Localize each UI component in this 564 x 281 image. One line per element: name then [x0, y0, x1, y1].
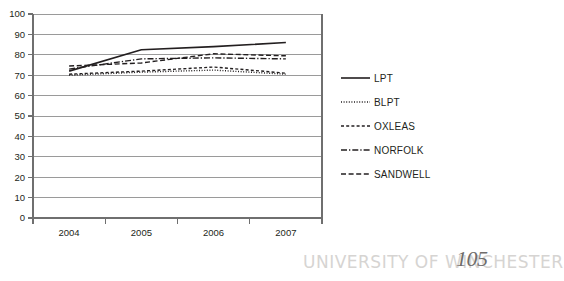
y-tick-label: 50: [14, 110, 25, 121]
y-tick-label: 70: [14, 70, 25, 81]
y-tick-label: 10: [14, 192, 25, 203]
y-tick-label: 90: [14, 29, 25, 40]
y-tick-label: 60: [14, 90, 25, 101]
page-number: 105: [456, 246, 488, 272]
y-tick-label: 100: [9, 8, 25, 19]
x-tick-label: 2004: [59, 227, 80, 238]
legend-item-norfolk: NORFOLK: [341, 138, 501, 162]
y-tick-label: 80: [14, 49, 25, 60]
x-tick-label: 2005: [131, 227, 152, 238]
legend-line-sample-solid: [341, 73, 370, 83]
x-tick-label: 2007: [275, 227, 296, 238]
x-tick-label: 2006: [203, 227, 224, 238]
y-tick-label: 40: [14, 131, 25, 142]
legend-label-oxleas: OXLEAS: [374, 121, 415, 132]
x-axis-ticks: [33, 218, 322, 224]
legend-label-sandwell: SANDWELL: [374, 169, 431, 180]
x-axis-tick-labels: 2004 2005 2006 2007: [59, 227, 297, 238]
y-tick-label: 30: [14, 151, 25, 162]
legend-item-sandwell: SANDWELL: [341, 162, 501, 186]
y-tick-label: 20: [14, 172, 25, 183]
legend-line-sample-long-dashed: [341, 169, 370, 179]
y-axis-tick-labels: 100 90 80 70 60 50 40 30 20 10 0: [9, 8, 25, 223]
chart-legend: LPT BLPT OXLEAS NORFOLK SANDWELL: [341, 66, 501, 186]
legend-line-sample-dotted: [341, 97, 370, 107]
y-tick-label: 0: [20, 212, 25, 223]
legend-item-blpt: BLPT: [341, 90, 501, 114]
legend-label-norfolk: NORFOLK: [374, 145, 424, 156]
legend-label-blpt: BLPT: [374, 97, 400, 108]
legend-line-sample-dashed: [341, 121, 370, 131]
legend-item-oxleas: OXLEAS: [341, 114, 501, 138]
legend-line-sample-dash-dot: [341, 145, 370, 155]
legend-item-lpt: LPT: [341, 66, 501, 90]
legend-label-lpt: LPT: [374, 73, 393, 84]
y-axis-ticks: [28, 14, 33, 218]
